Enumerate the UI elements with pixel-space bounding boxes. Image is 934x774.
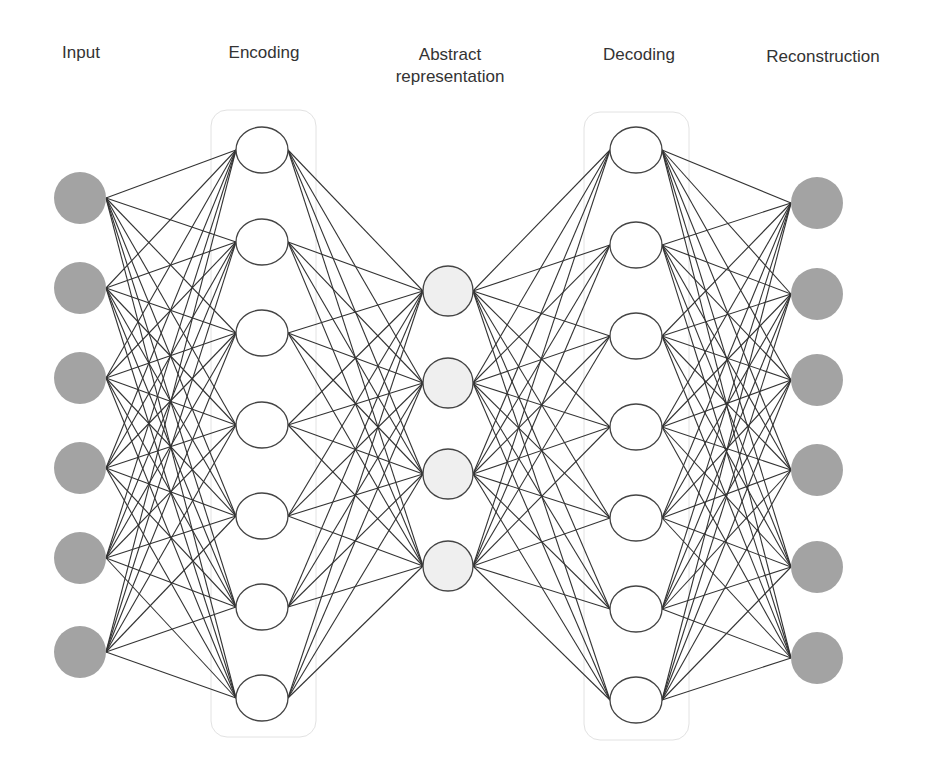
node-decoding-7 [610, 677, 662, 723]
node-input-5 [54, 532, 106, 584]
node-decoding-5 [610, 495, 662, 541]
edge-encoding-abstract [288, 383, 423, 698]
edge-decoding-reconstruction [662, 658, 791, 700]
edge-decoding-reconstruction [662, 203, 791, 427]
node-decoding-1 [610, 127, 662, 173]
edge-encoding-abstract [288, 291, 423, 607]
edge-input-encoding [106, 198, 236, 242]
node-decoding-4 [610, 404, 662, 450]
node-encoding-2 [236, 219, 288, 265]
node-encoding-3 [236, 310, 288, 356]
edge-decoding-reconstruction [662, 380, 791, 609]
node-reconstruction-5 [791, 541, 843, 593]
edge-encoding-abstract [288, 242, 423, 291]
edge-decoding-reconstruction [662, 567, 791, 700]
edge-decoding-reconstruction [662, 470, 791, 700]
edge-input-encoding [106, 198, 236, 425]
edge-input-encoding [106, 333, 236, 652]
node-abstract-2 [423, 358, 473, 408]
edge-input-encoding [106, 150, 236, 378]
edge-input-encoding [106, 652, 236, 698]
node-decoding-3 [610, 313, 662, 359]
node-reconstruction-2 [791, 268, 843, 320]
edge-decoding-reconstruction [662, 150, 791, 294]
node-decoding-2 [610, 222, 662, 268]
node-encoding-1 [236, 127, 288, 173]
edge-input-encoding [106, 150, 236, 652]
edge-abstract-decoding [473, 566, 610, 609]
edge-abstract-decoding [473, 245, 610, 566]
node-input-6 [54, 626, 106, 678]
node-reconstruction-4 [791, 444, 843, 496]
node-reconstruction-6 [791, 632, 843, 684]
connections [106, 150, 791, 700]
node-abstract-1 [423, 266, 473, 316]
edge-input-encoding [106, 150, 236, 198]
node-reconstruction-3 [791, 354, 843, 406]
edge-decoding-reconstruction [662, 203, 791, 700]
edge-abstract-decoding [473, 245, 610, 291]
edge-input-encoding [106, 558, 236, 698]
node-input-3 [54, 352, 106, 404]
node-reconstruction-1 [791, 177, 843, 229]
node-encoding-5 [236, 493, 288, 539]
edge-decoding-reconstruction [662, 150, 791, 203]
edge-abstract-decoding [473, 336, 610, 566]
node-encoding-6 [236, 584, 288, 630]
edge-input-encoding [106, 607, 236, 652]
node-input-1 [54, 172, 106, 224]
node-input-2 [54, 262, 106, 314]
edge-abstract-decoding [473, 427, 610, 566]
node-abstract-4 [423, 541, 473, 591]
edge-decoding-reconstruction [662, 380, 791, 700]
edge-abstract-decoding [473, 150, 610, 566]
edge-decoding-reconstruction [662, 150, 791, 470]
nodes [54, 127, 843, 723]
edge-decoding-reconstruction [662, 518, 791, 567]
edge-abstract-decoding [473, 150, 610, 291]
edge-encoding-abstract [288, 291, 423, 333]
edge-encoding-abstract [288, 150, 423, 291]
node-abstract-3 [423, 449, 473, 499]
edge-abstract-decoding [473, 518, 610, 566]
node-decoding-6 [610, 586, 662, 632]
edge-input-encoding [106, 558, 236, 607]
edge-abstract-decoding [473, 150, 610, 383]
node-encoding-4 [236, 402, 288, 448]
node-encoding-7 [236, 675, 288, 721]
edge-decoding-reconstruction [662, 380, 791, 427]
node-input-4 [54, 442, 106, 494]
edge-input-encoding [106, 516, 236, 652]
autoencoder-diagram [0, 0, 934, 774]
